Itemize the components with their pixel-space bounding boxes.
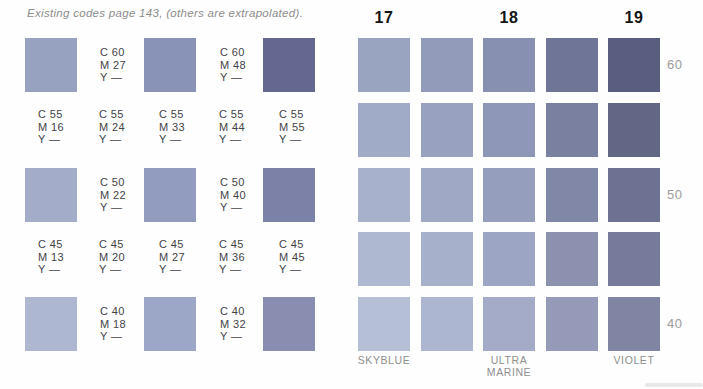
cmy-code-line: C 55	[159, 108, 205, 121]
color-swatch	[144, 38, 196, 92]
cmy-code: C 55M 55Y —	[279, 108, 325, 146]
cmy-code-line: C 50	[100, 176, 146, 189]
cmy-code-line: Y —	[38, 133, 84, 146]
cmy-code-line: Y —	[100, 71, 146, 84]
cmy-code-line: Y —	[220, 330, 266, 343]
cmy-code: C 40M 32Y —	[220, 305, 266, 343]
tint-swatch	[358, 232, 410, 286]
column-footer-line: MARINE	[467, 366, 551, 378]
cmy-code-line: C 55	[279, 108, 325, 121]
cmy-code-line: M 13	[38, 251, 84, 264]
cmy-code-line: M 20	[99, 251, 145, 264]
cmy-code-line: Y —	[279, 133, 325, 146]
tint-swatch	[483, 38, 535, 92]
cmy-code: C 45M 20Y —	[99, 238, 145, 276]
tint-swatch	[483, 232, 535, 286]
density-label: 40	[667, 316, 697, 331]
color-swatch	[25, 168, 77, 222]
cmy-code-line: M 18	[100, 318, 146, 331]
column-footer-label: SKYBLUE	[342, 354, 426, 366]
cmy-code-line: Y —	[220, 201, 266, 214]
cmy-code-line: M 33	[159, 121, 205, 134]
tint-swatch	[608, 38, 660, 92]
tint-swatch	[421, 232, 473, 286]
tint-swatch	[483, 168, 535, 222]
cmy-code: C 55M 44Y —	[219, 108, 265, 146]
tint-swatch	[358, 297, 410, 351]
cmy-code-line: M 55	[279, 121, 325, 134]
cmy-code: C 55M 33Y —	[159, 108, 205, 146]
cmy-code: C 40M 18Y —	[100, 305, 146, 343]
cmy-code: C 50M 22Y —	[100, 176, 146, 214]
cmy-code-line: Y —	[100, 201, 146, 214]
cmy-code-line: M 16	[38, 121, 84, 134]
cmy-code-line: Y —	[159, 133, 205, 146]
cmy-code-line: Y —	[219, 133, 265, 146]
color-swatch	[144, 168, 196, 222]
cmy-code: C 45M 36Y —	[219, 238, 265, 276]
tint-swatch	[483, 103, 535, 157]
tint-swatch	[358, 168, 410, 222]
tint-swatch	[358, 103, 410, 157]
column-footer-label: VIOLET	[592, 354, 676, 366]
cmy-code-line: C 40	[100, 305, 146, 318]
tint-swatch	[546, 232, 598, 286]
cmy-code-line: M 36	[219, 251, 265, 264]
cmy-code-line: C 45	[38, 238, 84, 251]
cmy-code-line: C 55	[99, 108, 145, 121]
cmy-code-line: C 55	[38, 108, 84, 121]
tint-swatch	[358, 38, 410, 92]
column-footer-line: VIOLET	[592, 354, 676, 366]
cmy-code-line: C 45	[159, 238, 205, 251]
cmy-code-line: Y —	[99, 263, 145, 276]
tint-swatch	[421, 297, 473, 351]
column-header: 18	[479, 9, 539, 27]
cmy-code-line: Y —	[100, 330, 146, 343]
column-footer-label: ULTRAMARINE	[467, 354, 551, 378]
color-swatch	[263, 297, 315, 351]
density-label: 50	[667, 187, 697, 202]
cmy-code: C 55M 24Y —	[99, 108, 145, 146]
cmy-code-line: C 50	[220, 176, 266, 189]
color-swatch	[25, 38, 77, 92]
cmy-code-line: M 22	[100, 189, 146, 202]
cmy-code: C 50M 40Y —	[220, 176, 266, 214]
tint-swatch	[546, 168, 598, 222]
cmy-code: C 55M 16Y —	[38, 108, 84, 146]
cmy-code-line: Y —	[159, 263, 205, 276]
cmy-code-line: M 27	[159, 251, 205, 264]
color-swatch	[263, 38, 315, 92]
cmy-code: C 45M 27Y —	[159, 238, 205, 276]
cmy-code-line: Y —	[220, 71, 266, 84]
cmy-code: C 45M 13Y —	[38, 238, 84, 276]
cmy-code-line: C 45	[279, 238, 325, 251]
density-label: 60	[667, 57, 697, 72]
cmy-code-line: C 60	[220, 46, 266, 59]
cmy-code-line: C 60	[100, 46, 146, 59]
tint-swatch	[546, 297, 598, 351]
cmy-code-line: M 45	[279, 251, 325, 264]
scan-edge-artifact	[645, 383, 703, 387]
color-swatch	[263, 168, 315, 222]
cmy-code-line: M 32	[220, 318, 266, 331]
cmy-code: C 45M 45Y —	[279, 238, 325, 276]
cmy-code-line: C 40	[220, 305, 266, 318]
tint-swatch	[608, 297, 660, 351]
cmy-code-line: C 55	[219, 108, 265, 121]
cmy-code-line: M 40	[220, 189, 266, 202]
cmy-code-line: M 48	[220, 59, 266, 72]
tint-swatch	[421, 38, 473, 92]
tint-swatch	[421, 103, 473, 157]
cmy-code: C 60M 27Y —	[100, 46, 146, 84]
tint-swatch	[546, 103, 598, 157]
cmy-code-line: C 45	[99, 238, 145, 251]
column-footer-line: ULTRA	[467, 354, 551, 366]
tint-swatch	[421, 168, 473, 222]
column-footer-line: SKYBLUE	[342, 354, 426, 366]
cmy-code-line: C 45	[219, 238, 265, 251]
page-title: Existing codes page 143, (others are ext…	[27, 7, 303, 19]
cmy-code-line: Y —	[38, 263, 84, 276]
cmy-code-line: M 24	[99, 121, 145, 134]
cmy-code-line: M 44	[219, 121, 265, 134]
tint-swatch	[546, 38, 598, 92]
